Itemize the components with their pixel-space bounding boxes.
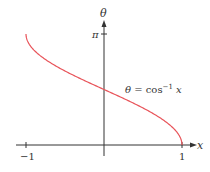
curve-equation: θ = cos−1 x (125, 83, 182, 95)
x-axis-arrow-icon (190, 143, 197, 148)
chart-canvas: θ x π −1 1 θ = cos−1 x (0, 0, 210, 172)
x-tick-neg-one-label: −1 (20, 151, 35, 162)
y-tick-pi-label: π (91, 29, 99, 40)
x-axis-label: x (197, 139, 204, 152)
x-tick-one-label: 1 (179, 151, 185, 162)
y-axis-label: θ (100, 7, 107, 20)
y-axis-arrow-icon (102, 20, 107, 27)
